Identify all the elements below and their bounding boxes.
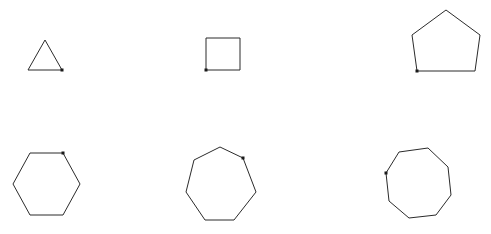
triangle-outline <box>28 40 62 70</box>
triangle-start-vertex-marker <box>61 69 64 72</box>
shape-group-octagon <box>385 148 452 218</box>
square-start-vertex-marker <box>205 69 208 72</box>
square-outline <box>206 38 240 70</box>
heptagon-outline <box>186 147 256 220</box>
shape-group-pentagon <box>412 10 480 73</box>
polygon-figure-canvas <box>0 0 491 234</box>
polygon-figure-svg <box>0 0 491 234</box>
shape-group-heptagon <box>186 147 256 220</box>
shape-group-hexagon <box>13 152 80 216</box>
pentagon-start-vertex-marker <box>416 70 419 73</box>
pentagon-outline <box>412 10 480 71</box>
heptagon-start-vertex-marker <box>242 157 245 160</box>
shape-group-square <box>205 38 241 72</box>
octagon-start-vertex-marker <box>385 172 388 175</box>
hexagon-start-vertex-marker <box>62 152 65 155</box>
octagon-outline <box>386 148 451 218</box>
hexagon-outline <box>13 153 80 215</box>
shape-group-triangle <box>28 40 64 72</box>
